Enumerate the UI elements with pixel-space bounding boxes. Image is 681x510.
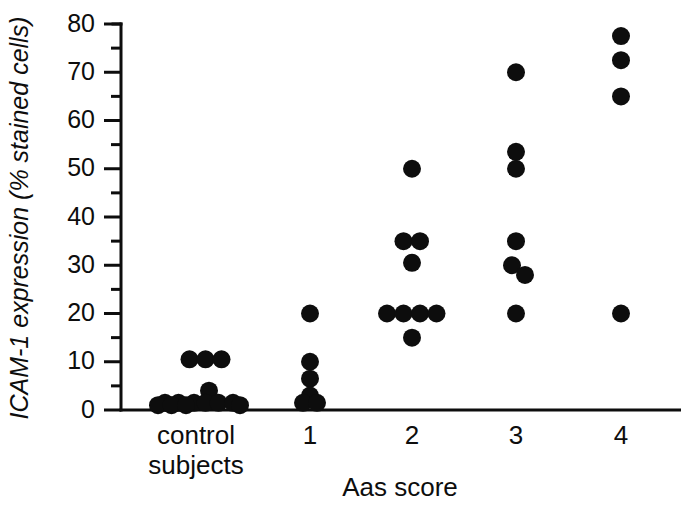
y-tick-label: 50	[67, 153, 95, 181]
x-tick-label: 3	[509, 420, 523, 450]
y-axis-title: ICAM-1 expression (% stained cells)	[5, 17, 33, 420]
data-point	[308, 394, 326, 412]
data-point	[301, 353, 319, 371]
data-point	[231, 396, 249, 414]
data-point	[181, 350, 199, 368]
data-point	[301, 370, 319, 388]
data-point	[612, 27, 630, 45]
data-point	[612, 51, 630, 69]
data-point	[507, 143, 525, 161]
data-point	[395, 232, 413, 250]
x-axis-title: Aas score	[342, 472, 458, 502]
dot-plot-chart: 01020304050607080 controlsubjects1234 Aa…	[0, 0, 681, 510]
y-tick-label: 80	[67, 9, 95, 37]
data-point	[403, 329, 421, 347]
data-point	[612, 305, 630, 323]
data-point	[403, 160, 421, 178]
y-tick-label: 60	[67, 105, 95, 133]
data-point	[411, 232, 429, 250]
x-tick-label: 2	[405, 420, 419, 450]
data-point	[411, 305, 429, 323]
y-tick-label: 20	[67, 298, 95, 326]
x-tick-label: 1	[303, 420, 317, 450]
data-point	[507, 63, 525, 81]
chart-figure: 01020304050607080 controlsubjects1234 Aa…	[0, 0, 681, 510]
data-point	[177, 396, 195, 414]
y-tick-label: 70	[67, 57, 95, 85]
data-point	[378, 305, 396, 323]
data-point	[301, 305, 319, 323]
y-axis-tick-labels: 01020304050607080	[67, 9, 95, 423]
y-tick-label: 10	[67, 346, 95, 374]
y-tick-label: 30	[67, 250, 95, 278]
x-tick-label: control	[157, 420, 235, 450]
data-point	[507, 305, 525, 323]
data-point	[516, 266, 534, 284]
x-tick-label: 4	[614, 420, 628, 450]
chart-background	[0, 0, 681, 510]
y-axis-title-group: ICAM-1 expression (% stained cells)	[5, 17, 33, 420]
data-point	[428, 305, 446, 323]
data-point	[612, 87, 630, 105]
data-point	[197, 350, 215, 368]
data-point	[403, 254, 421, 272]
y-tick-label: 0	[81, 395, 95, 423]
x-tick-label-line2: subjects	[148, 450, 243, 480]
y-tick-label: 40	[67, 202, 95, 230]
data-point	[395, 305, 413, 323]
data-point	[507, 232, 525, 250]
data-point	[213, 350, 231, 368]
data-point	[507, 160, 525, 178]
